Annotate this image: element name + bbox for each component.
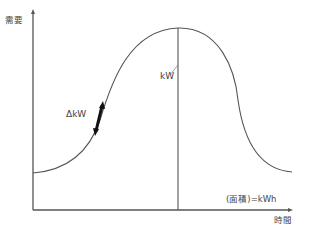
peak-kw-label: kW xyxy=(160,72,174,81)
demand-curve xyxy=(33,28,292,173)
delta-kw-arrowhead-top-icon xyxy=(99,101,105,109)
y-axis-arrow-icon xyxy=(31,9,35,14)
area-kwh-label: (面積)=kWh xyxy=(226,195,276,204)
x-axis-arrow-icon xyxy=(288,208,293,212)
x-axis-label: 時間 xyxy=(274,216,292,225)
delta-kw-label: ΔkW xyxy=(66,110,86,119)
delta-kw-arrow xyxy=(96,106,102,131)
y-axis-label: 需要 xyxy=(5,16,23,25)
